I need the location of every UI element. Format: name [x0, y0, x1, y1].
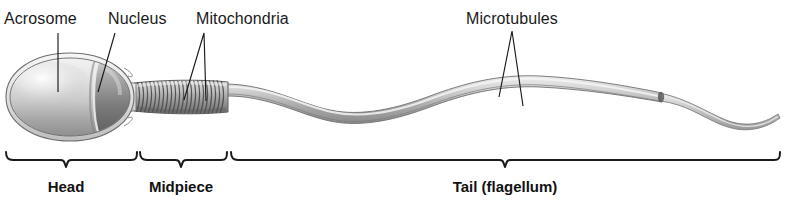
callout-label-mitochondria: Mitochondria: [196, 10, 289, 28]
bracket-label-head: Head: [0, 178, 132, 195]
sperm-cell-diagram: [0, 0, 790, 207]
head-illustration: [6, 53, 134, 142]
bracket-midpiece: [140, 152, 227, 167]
annulus-junction: [658, 92, 664, 102]
callout-label-acrosome: Acrosome: [4, 10, 77, 28]
bracket-label-tail: Tail (flagellum): [405, 178, 605, 195]
callout-label-microtubules: Microtubules: [466, 10, 558, 28]
callout-label-nucleus: Nucleus: [108, 10, 167, 28]
bracket-label-midpiece: Midpiece: [115, 178, 247, 195]
section-brackets: [6, 152, 780, 167]
leader-line-microtubules: [499, 31, 523, 106]
bracket-head: [6, 152, 137, 167]
bracket-tail: [231, 152, 780, 167]
nucleus-region: [94, 58, 130, 136]
